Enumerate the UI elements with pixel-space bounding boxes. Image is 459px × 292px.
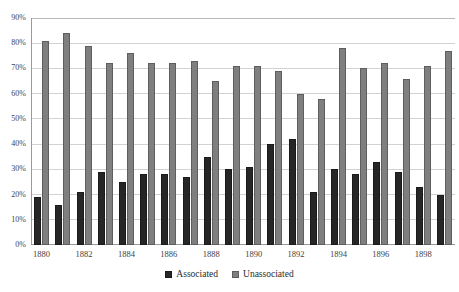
bar-assoc — [437, 195, 444, 245]
x-axis-tick-blank — [349, 247, 370, 263]
x-axis-tick-blank — [307, 247, 328, 263]
y-axis-tick-label: 90% — [11, 14, 26, 22]
y-axis-tick-label: 0% — [15, 241, 26, 249]
bar-assoc — [289, 139, 296, 245]
bar-assoc — [225, 169, 232, 245]
x-axis-tick-blank — [434, 247, 455, 263]
bar-group — [201, 18, 222, 245]
chart-legend: AssociatedUnassociated — [0, 268, 459, 280]
bar-assoc — [331, 169, 338, 245]
x-axis-tick-label: 1882 — [73, 247, 94, 263]
bar-chart: 90%80%70%60%50%40%30%20%10%0% 1880188218… — [0, 0, 459, 292]
legend-label: Associated — [176, 268, 218, 280]
x-axis-tick-label: 1890 — [243, 247, 264, 263]
bar-group — [264, 18, 285, 245]
bar-unassoc — [275, 71, 282, 245]
y-axis-tick-label: 20% — [11, 191, 26, 199]
bar-assoc — [246, 167, 253, 245]
bar-unassoc — [318, 99, 325, 245]
bar-assoc — [373, 162, 380, 245]
bar-group — [179, 18, 200, 245]
x-axis-tick-label: 1884 — [116, 247, 137, 263]
bar-group — [391, 18, 412, 245]
bar-group — [413, 18, 434, 245]
bar-group — [307, 18, 328, 245]
bar-group — [370, 18, 391, 245]
bar-unassoc — [212, 81, 219, 245]
x-axis-tick-blank — [179, 247, 200, 263]
bar-assoc — [310, 192, 317, 245]
x-axis-tick-blank — [264, 247, 285, 263]
bar-group — [328, 18, 349, 245]
bar-unassoc — [148, 63, 155, 245]
bar-assoc — [140, 174, 147, 245]
bar-group — [158, 18, 179, 245]
bar-group — [52, 18, 73, 245]
legend-item: Unassociated — [232, 268, 294, 280]
bar-group — [31, 18, 52, 245]
x-axis-tick-label: 1892 — [285, 247, 306, 263]
bar-unassoc — [339, 48, 346, 245]
y-axis-tick-label: 40% — [11, 140, 26, 148]
bar-assoc — [55, 205, 62, 245]
bar-group — [95, 18, 116, 245]
bar-assoc — [416, 187, 423, 245]
bar-assoc — [98, 172, 105, 245]
bar-assoc — [161, 174, 168, 245]
legend-item: Associated — [165, 268, 218, 280]
x-axis-tick-blank — [52, 247, 73, 263]
bar-unassoc — [42, 41, 49, 245]
bar-assoc — [204, 157, 211, 245]
bar-assoc — [183, 177, 190, 245]
bar-unassoc — [381, 63, 388, 245]
bar-unassoc — [445, 51, 452, 245]
bar-group — [349, 18, 370, 245]
legend-swatch-assoc-icon — [165, 271, 172, 278]
bar-group — [222, 18, 243, 245]
bar-unassoc — [169, 63, 176, 245]
x-axis-tick-label: 1888 — [201, 247, 222, 263]
y-axis-tick-label: 30% — [11, 165, 26, 173]
bar-unassoc — [254, 66, 261, 245]
bar-group — [73, 18, 94, 245]
y-axis-tick-label: 60% — [11, 90, 26, 98]
bar-unassoc — [191, 61, 198, 245]
bar-assoc — [267, 144, 274, 245]
y-axis: 90%80%70%60%50%40%30%20%10%0% — [0, 18, 29, 245]
legend-swatch-unassoc-icon — [232, 271, 239, 278]
bar-unassoc — [297, 94, 304, 245]
bar-group — [243, 18, 264, 245]
bar-unassoc — [403, 79, 410, 245]
x-axis-tick-label: 1898 — [413, 247, 434, 263]
bar-unassoc — [127, 53, 134, 245]
bar-unassoc — [63, 33, 70, 245]
bar-group — [137, 18, 158, 245]
bar-group — [116, 18, 137, 245]
x-axis-tick-blank — [95, 247, 116, 263]
x-axis-tick-blank — [137, 247, 158, 263]
bar-assoc — [34, 197, 41, 245]
bar-unassoc — [85, 46, 92, 245]
bar-assoc — [352, 174, 359, 245]
bar-assoc — [395, 172, 402, 245]
bar-assoc — [119, 182, 126, 245]
bar-assoc — [77, 192, 84, 245]
x-axis-tick-label: 1896 — [370, 247, 391, 263]
x-axis-tick-label: 1880 — [31, 247, 52, 263]
y-axis-tick-label: 70% — [11, 64, 26, 72]
x-axis: 1880188218841886188818901892189418961898 — [31, 247, 455, 263]
bar-unassoc — [424, 66, 431, 245]
bar-unassoc — [360, 68, 367, 245]
bar-unassoc — [233, 66, 240, 245]
y-axis-tick-label: 10% — [11, 216, 26, 224]
legend-label: Unassociated — [243, 268, 294, 280]
bars-layer — [31, 18, 455, 245]
bar-unassoc — [106, 63, 113, 245]
bar-group — [434, 18, 455, 245]
x-axis-tick-label: 1894 — [328, 247, 349, 263]
x-axis-tick-blank — [222, 247, 243, 263]
x-axis-tick-blank — [391, 247, 412, 263]
bar-group — [285, 18, 306, 245]
x-axis-tick-label: 1886 — [158, 247, 179, 263]
y-axis-tick-label: 50% — [11, 115, 26, 123]
